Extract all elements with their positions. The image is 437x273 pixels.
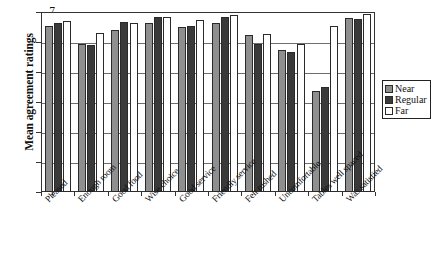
x-tick-mark bbox=[275, 192, 276, 196]
legend-label: Regular bbox=[395, 94, 427, 105]
legend-swatch-icon bbox=[385, 107, 393, 115]
legend-item: Near bbox=[385, 83, 427, 94]
legend-swatch-icon bbox=[385, 96, 393, 104]
x-tick-mark bbox=[308, 192, 309, 196]
legend-label: Far bbox=[395, 105, 408, 116]
x-tick-mark bbox=[375, 192, 376, 196]
x-tick-mark bbox=[241, 192, 242, 196]
gridline bbox=[42, 103, 374, 104]
bar-chart: Mean agreement ratings 1234567 PleasedEn… bbox=[0, 0, 437, 273]
x-tick-mark bbox=[208, 192, 209, 196]
x-tick-mark bbox=[108, 192, 109, 196]
x-tick-mark bbox=[74, 192, 75, 196]
legend-label: Near bbox=[395, 83, 414, 94]
chart-legend: NearRegularFar bbox=[382, 80, 431, 119]
legend-item: Regular bbox=[385, 94, 427, 105]
x-tick-mark bbox=[175, 192, 176, 196]
gridline bbox=[42, 133, 374, 134]
gridline bbox=[42, 73, 374, 74]
x-tick-mark bbox=[141, 192, 142, 196]
x-tick-mark bbox=[41, 192, 42, 196]
x-tick-mark bbox=[342, 192, 343, 196]
legend-swatch-icon bbox=[385, 85, 393, 93]
legend-item: Far bbox=[385, 105, 427, 116]
gridline bbox=[42, 43, 374, 44]
gridline bbox=[42, 163, 374, 164]
